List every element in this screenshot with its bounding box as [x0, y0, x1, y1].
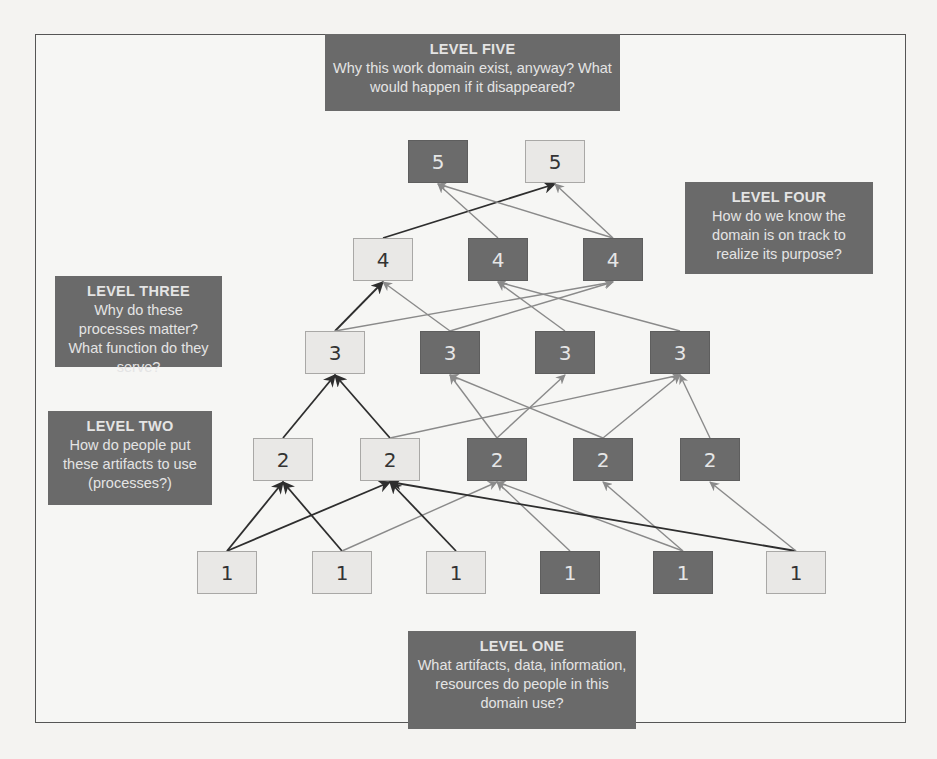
node-label: 2 — [277, 448, 290, 472]
level-1-node-1: 1 — [197, 551, 257, 594]
node-label: 1 — [221, 561, 234, 585]
level-three-description: Why do these processes matter? What func… — [63, 301, 214, 377]
level-four-title: LEVEL FOUR — [693, 188, 865, 207]
level-3-node-2: 3 — [420, 331, 480, 374]
level-three-title: LEVEL THREE — [63, 282, 214, 301]
node-label: 1 — [564, 561, 577, 585]
level-four-description: How do we know the domain is on track to… — [693, 207, 865, 264]
level-one-description: What artifacts, data, information, resou… — [416, 656, 628, 713]
level-5-node-1: 5 — [408, 140, 468, 183]
level-two-title: LEVEL TWO — [56, 417, 204, 436]
level-five-description: Why this work domain exist, anyway? What… — [333, 59, 612, 97]
edge-arrow — [710, 482, 796, 551]
node-label: 5 — [549, 150, 562, 174]
level-1-node-3: 1 — [426, 551, 486, 594]
node-label: 2 — [384, 448, 397, 472]
edge-arrow — [335, 375, 390, 438]
node-label: 5 — [432, 150, 445, 174]
level-1-node-5: 1 — [653, 551, 713, 594]
node-label: 3 — [674, 341, 687, 365]
node-label: 4 — [607, 248, 620, 272]
level-two-callout: LEVEL TWO How do people put these artifa… — [48, 411, 212, 505]
node-label: 1 — [677, 561, 690, 585]
level-2-node-4: 2 — [573, 438, 633, 481]
node-label: 1 — [336, 561, 349, 585]
edge-arrow — [383, 282, 450, 331]
level-four-callout: LEVEL FOUR How do we know the domain is … — [685, 182, 873, 274]
level-5-node-2: 5 — [525, 140, 585, 183]
level-1-node-4: 1 — [540, 551, 600, 594]
node-label: 3 — [444, 341, 457, 365]
edge-arrow — [283, 375, 335, 438]
level-1-node-6: 1 — [766, 551, 826, 594]
level-4-node-2: 4 — [468, 238, 528, 281]
level-five-callout: LEVEL FIVE Why this work domain exist, a… — [325, 34, 620, 111]
node-label: 2 — [704, 448, 717, 472]
edge-arrow — [227, 482, 283, 551]
level-one-callout: LEVEL ONE What artifacts, data, informat… — [408, 631, 636, 729]
level-three-callout: LEVEL THREE Why do these processes matte… — [55, 276, 222, 367]
node-label: 2 — [597, 448, 610, 472]
edge-arrow — [438, 184, 613, 238]
edge-arrow — [498, 282, 565, 331]
edge-arrow — [680, 375, 710, 438]
node-label: 3 — [329, 341, 342, 365]
level-2-node-3: 2 — [467, 438, 527, 481]
level-1-node-2: 1 — [312, 551, 372, 594]
edge-arrow — [497, 482, 570, 551]
level-4-node-1: 4 — [353, 238, 413, 281]
level-2-node-1: 2 — [253, 438, 313, 481]
edge-arrow — [438, 184, 498, 238]
node-label: 4 — [492, 248, 505, 272]
level-2-node-5: 2 — [680, 438, 740, 481]
level-4-node-3: 4 — [583, 238, 643, 281]
edge-arrow — [283, 482, 342, 551]
edge-arrow — [603, 375, 680, 438]
node-label: 2 — [491, 448, 504, 472]
level-3-node-1: 3 — [305, 331, 365, 374]
level-2-node-2: 2 — [360, 438, 420, 481]
edge-arrow — [555, 184, 613, 238]
edge-arrow — [603, 482, 683, 551]
level-3-node-4: 3 — [650, 331, 710, 374]
node-label: 4 — [377, 248, 390, 272]
level-two-description: How do people put these artifacts to use… — [56, 436, 204, 493]
edge-arrow — [497, 375, 565, 438]
level-one-title: LEVEL ONE — [416, 637, 628, 656]
level-five-title: LEVEL FIVE — [333, 40, 612, 59]
node-label: 3 — [559, 341, 572, 365]
level-3-node-3: 3 — [535, 331, 595, 374]
node-label: 1 — [450, 561, 463, 585]
edge-arrow — [390, 375, 680, 438]
edge-arrow — [390, 482, 796, 551]
node-label: 1 — [790, 561, 803, 585]
